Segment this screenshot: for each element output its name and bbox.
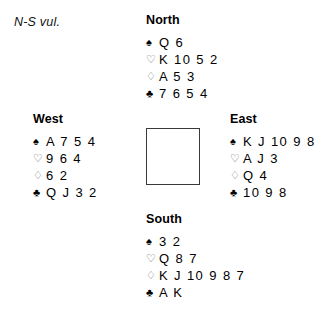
hand-west-clubs-row: ♣ Q J 3 2	[33, 184, 98, 201]
heart-icon: ♡	[230, 150, 243, 167]
spade-icon: ♠	[33, 133, 46, 150]
vulnerability-note: N-S vul.	[14, 15, 60, 29]
diamond-icon: ♢	[230, 167, 243, 184]
hand-west-clubs: Q J 3 2	[46, 184, 98, 201]
hand-north-spades-row: ♠ Q 6	[146, 34, 219, 51]
heart-icon: ♡	[146, 250, 159, 267]
hand-west: West ♠ A 7 5 4 ♡ 9 6 4 ♢ 6 2 ♣ Q J 3 2	[33, 112, 98, 201]
spade-icon: ♠	[146, 233, 159, 250]
hand-north-clubs-row: ♣ 7 6 5 4	[146, 85, 219, 102]
hand-north: North ♠ Q 6 ♡ K 10 5 2 ♢ A 5 3 ♣ 7 6 5 4	[146, 13, 219, 102]
club-icon: ♣	[33, 184, 46, 201]
hand-south-diamonds: K J 10 9 8 7	[159, 267, 245, 284]
hand-north-label: North	[146, 13, 219, 27]
hand-south-label: South	[146, 212, 245, 226]
compass-center-box	[146, 128, 200, 185]
hand-south-diamonds-row: ♢ K J 10 9 8 7	[146, 267, 245, 284]
hand-west-hearts-row: ♡ 9 6 4	[33, 150, 98, 167]
hand-east: East ♠ K J 10 9 8 ♡ A J 3 ♢ Q 4 ♣ 10 9 8	[230, 112, 316, 201]
hand-east-clubs: 10 9 8	[243, 184, 288, 201]
hand-south-spades-row: ♠ 3 2	[146, 233, 245, 250]
hand-west-label: West	[33, 112, 98, 126]
hand-east-label: East	[230, 112, 316, 126]
diamond-icon: ♢	[146, 68, 159, 85]
spade-icon: ♠	[146, 34, 159, 51]
hand-north-diamonds-row: ♢ A 5 3	[146, 68, 219, 85]
heart-icon: ♡	[146, 51, 159, 68]
diamond-icon: ♢	[33, 167, 46, 184]
hand-north-spades: Q 6	[159, 34, 184, 51]
hand-south-hearts: Q 8 7	[159, 250, 198, 267]
hand-north-hearts: K 10 5 2	[159, 51, 219, 68]
hand-south-spades: 3 2	[159, 233, 181, 250]
hand-east-hearts-row: ♡ A J 3	[230, 150, 316, 167]
hand-east-diamonds: Q 4	[243, 167, 268, 184]
hand-north-diamonds: A 5 3	[159, 68, 196, 85]
club-icon: ♣	[146, 284, 159, 301]
hand-west-hearts: 9 6 4	[46, 150, 82, 167]
heart-icon: ♡	[33, 150, 46, 167]
hand-south-clubs-row: ♣ A K	[146, 284, 245, 301]
hand-east-hearts: A J 3	[243, 150, 279, 167]
hand-south: South ♠ 3 2 ♡ Q 8 7 ♢ K J 10 9 8 7 ♣ A K	[146, 212, 245, 301]
hand-east-clubs-row: ♣ 10 9 8	[230, 184, 316, 201]
hand-west-spades-row: ♠ A 7 5 4	[33, 133, 98, 150]
hand-east-spades-row: ♠ K J 10 9 8	[230, 133, 316, 150]
hand-west-diamonds-row: ♢ 6 2	[33, 167, 98, 184]
hand-south-hearts-row: ♡ Q 8 7	[146, 250, 245, 267]
hand-east-diamonds-row: ♢ Q 4	[230, 167, 316, 184]
hand-west-diamonds: 6 2	[46, 167, 68, 184]
hand-north-clubs: 7 6 5 4	[159, 85, 209, 102]
club-icon: ♣	[230, 184, 243, 201]
hand-south-clubs: A K	[159, 284, 183, 301]
hand-north-hearts-row: ♡ K 10 5 2	[146, 51, 219, 68]
hand-east-spades: K J 10 9 8	[243, 133, 316, 150]
hand-west-spades: A 7 5 4	[46, 133, 96, 150]
diamond-icon: ♢	[146, 267, 159, 284]
club-icon: ♣	[146, 85, 159, 102]
spade-icon: ♠	[230, 133, 243, 150]
